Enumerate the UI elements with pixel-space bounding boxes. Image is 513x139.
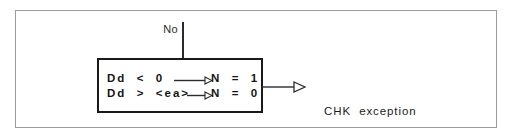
inner-arrow-icon-1 (187, 91, 213, 100)
condition-expression-row-0: Dd < 0 (107, 72, 164, 85)
outgoing-arrow-icon (262, 81, 306, 93)
branch-label-no: No (150, 23, 178, 35)
diagram-canvas: No Dd < 0 Dd > <ea> N = 1 N = 0 CHK exce… (0, 0, 513, 139)
destination-label-line-1: CHK exception (324, 104, 417, 119)
inner-arrow-icon-0 (174, 76, 213, 85)
result-expression-row-1: N = 0 (211, 87, 259, 100)
destination-label: CHK exception handling (324, 74, 417, 139)
incoming-connector-line (182, 22, 184, 59)
condition-box: Dd < 0 Dd > <ea> N = 1 N = 0 (97, 58, 263, 113)
condition-expression-row-1: Dd > <ea> (107, 87, 190, 100)
result-expression-row-0: N = 1 (211, 72, 259, 85)
